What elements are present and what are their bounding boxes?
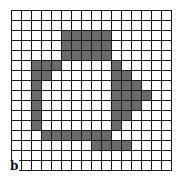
grid-cell: [121, 50, 131, 60]
grid-cell: [81, 20, 91, 30]
grid-cell: [141, 60, 151, 70]
grid-cell: [151, 40, 161, 50]
grid-cell: [91, 110, 101, 120]
grid-cell: [111, 130, 121, 140]
grid-cell: [101, 110, 111, 120]
grid-cell: [111, 10, 121, 20]
grid-cell: [161, 40, 171, 50]
grid-cell-shaded: [101, 130, 111, 140]
grid-cell: [61, 160, 71, 170]
grid-cell: [21, 80, 31, 90]
grid-cell: [131, 60, 141, 70]
grid-cell: [81, 110, 91, 120]
grid-cell-shaded: [31, 90, 41, 100]
grid-cell: [31, 30, 41, 40]
grid-cell: [141, 130, 151, 140]
grid-cell-shaded: [91, 30, 101, 40]
grid-cell-shaded: [41, 130, 51, 140]
grid-cell: [151, 50, 161, 60]
grid-cell-shaded: [111, 80, 121, 90]
grid-cell: [111, 160, 121, 170]
grid-cell: [11, 10, 21, 20]
grid-cell: [151, 110, 161, 120]
grid-cell: [71, 90, 81, 100]
grid-cell: [151, 20, 161, 30]
grid-cell-shaded: [101, 40, 111, 50]
grid-cell: [91, 150, 101, 160]
grid-cell: [151, 140, 161, 150]
grid-cell: [131, 10, 141, 20]
grid-cell: [161, 140, 171, 150]
grid-cell: [101, 90, 111, 100]
grid-cell: [141, 140, 151, 150]
grid-cell-shaded: [91, 40, 101, 50]
grid-cell-shaded: [131, 80, 141, 90]
grid-cell: [61, 90, 71, 100]
grid-cell: [51, 90, 61, 100]
grid-cell: [81, 100, 91, 110]
grid-cell: [121, 120, 131, 130]
grid-cell: [31, 50, 41, 60]
grid-cell: [31, 40, 41, 50]
grid-cell: [21, 50, 31, 60]
grid-cell: [161, 120, 171, 130]
grid-cell-shaded: [61, 130, 71, 140]
grid-cell: [51, 100, 61, 110]
grid-cell: [81, 90, 91, 100]
grid-cell: [21, 130, 31, 140]
grid-cell: [21, 110, 31, 120]
grid-cell-shaded: [51, 60, 61, 70]
grid-cell: [141, 100, 151, 110]
grid-cell-shaded: [91, 140, 101, 150]
grid-cell: [61, 110, 71, 120]
grid-cell: [121, 60, 131, 70]
grid-cell: [151, 160, 161, 170]
grid-cell: [41, 10, 51, 20]
grid-cell: [161, 60, 171, 70]
grid-cell-shaded: [111, 60, 121, 70]
grid-cell: [61, 150, 71, 160]
grid-cell: [41, 90, 51, 100]
grid-cell: [141, 70, 151, 80]
grid-cell-shaded: [121, 100, 131, 110]
grid-cell: [41, 160, 51, 170]
grid-cell: [161, 100, 171, 110]
grid-cell: [61, 10, 71, 20]
grid-cell: [11, 120, 21, 130]
grid-cell: [111, 40, 121, 50]
grid-cell: [101, 100, 111, 110]
grid-cell-shaded: [101, 140, 111, 150]
grid-cell-shaded: [121, 70, 131, 80]
grid-cell: [161, 150, 171, 160]
grid-cell: [131, 150, 141, 160]
grid-cell: [151, 120, 161, 130]
grid-cell: [71, 160, 81, 170]
grid-cell: [121, 30, 131, 40]
grid-cell: [71, 80, 81, 90]
grid-cell: [51, 10, 61, 20]
grid-cell: [141, 30, 151, 40]
grid-cell: [81, 10, 91, 20]
grid-cell: [141, 150, 151, 160]
grid-cell: [21, 20, 31, 30]
grid-cell: [31, 160, 41, 170]
grid-cell-shaded: [111, 70, 121, 80]
grid-cell: [51, 40, 61, 50]
grid-cell: [141, 40, 151, 50]
grid-cell: [131, 140, 141, 150]
grid-cell: [151, 130, 161, 140]
grid-cell: [151, 90, 161, 100]
grid-cell: [11, 90, 21, 100]
grid-cell: [51, 50, 61, 60]
grid-cell: [31, 10, 41, 20]
grid-cell: [111, 150, 121, 160]
grid-cell: [161, 90, 171, 100]
grid-cell: [111, 30, 121, 40]
grid-cell: [41, 40, 51, 50]
grid-cell: [51, 140, 61, 150]
grid-cell: [111, 20, 121, 30]
grid-cell: [71, 110, 81, 120]
grid-cell-shaded: [31, 60, 41, 70]
grid-cell: [141, 110, 151, 120]
grid-cell: [161, 130, 171, 140]
